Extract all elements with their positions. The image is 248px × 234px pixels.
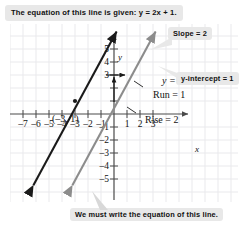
svg-text:–3: –3: [99, 148, 110, 158]
x-axis-label: x: [195, 144, 199, 154]
y-intercept-banner: y-intercept = 1: [176, 72, 239, 85]
svg-text:2: 2: [138, 119, 143, 129]
task-banner-tail: [88, 190, 112, 212]
svg-text:–5: –5: [99, 174, 110, 184]
coordinate-plane: –7 –6 –5 –4 –3 –2 –1 1 2 3 5 4 3 –1 –2 –…: [10, 24, 238, 202]
run-label: Run = 1: [153, 90, 185, 100]
svg-text:1: 1: [125, 119, 130, 129]
y-axis-label: y: [118, 52, 122, 62]
graph-svg: –7 –6 –5 –4 –3 –2 –1 1 2 3 5 4 3 –1 –2 –…: [10, 24, 238, 202]
plotted-point-minus3-1: [73, 99, 77, 103]
svg-text:–7: –7: [17, 119, 28, 129]
given-equation-banner: The equation of this line is given: y = …: [5, 5, 183, 21]
label-leader-lines: [127, 81, 143, 113]
svg-text:–4: –4: [99, 161, 110, 171]
y-intercept-banner-tail: [156, 64, 182, 84]
svg-text:–2: –2: [82, 119, 93, 129]
grid-lines: [10, 24, 238, 202]
svg-text:–6: –6: [30, 119, 41, 129]
rise-label: Rise = 2: [145, 115, 178, 125]
point-coordinate-label: (–3, 1): [52, 114, 79, 124]
svg-text:4: 4: [104, 57, 109, 67]
slope-banner-tail: [148, 36, 174, 52]
svg-text:–2: –2: [99, 135, 110, 145]
slope-banner: Slope = 2: [168, 27, 212, 40]
figure-root: The equation of this line is given: y = …: [0, 0, 248, 234]
